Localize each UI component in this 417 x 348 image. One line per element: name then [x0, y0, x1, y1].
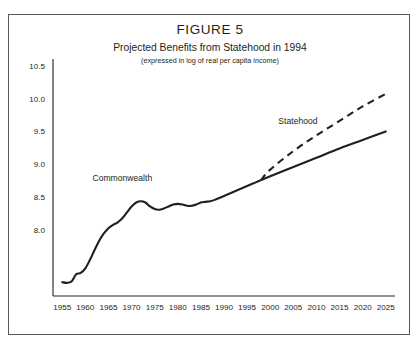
y-tick-label: 8.0	[34, 226, 46, 235]
chart-plot-area: 8.08.59.09.510.010.5 1955196019651970197…	[9, 15, 411, 336]
series-line-statehood	[261, 94, 386, 180]
x-tick-label: 2025	[377, 303, 396, 312]
x-tick-label: 2020	[354, 303, 373, 312]
y-tick-label: 8.5	[34, 193, 46, 202]
x-tick-label: 2015	[331, 303, 350, 312]
x-tick-label: 2000	[261, 303, 280, 312]
y-tick-label: 9.0	[34, 160, 46, 169]
y-tick-label: 9.5	[34, 127, 46, 136]
figure-frame: FIGURE 5 Projected Benefits from Stateho…	[8, 14, 410, 335]
x-tick-label: 1970	[123, 303, 142, 312]
x-tick-label: 2010	[307, 303, 326, 312]
y-tick-labels: 8.08.59.09.510.010.5	[29, 62, 45, 236]
line-chart: 8.08.59.09.510.010.5 1955196019651970197…	[9, 15, 411, 336]
x-tick-label: 1955	[53, 303, 72, 312]
x-tick-label: 1995	[238, 303, 257, 312]
x-tick-label: 1990	[215, 303, 234, 312]
series-annotation: Commonwealth	[92, 173, 152, 183]
x-tick-label: 1975	[146, 303, 165, 312]
y-tick-label: 10.0	[29, 95, 45, 104]
y-tick-label: 10.5	[29, 62, 45, 71]
x-tick-label: 1980	[169, 303, 188, 312]
x-tick-label: 1960	[76, 303, 95, 312]
x-tick-label: 1985	[192, 303, 211, 312]
series-annotations: CommonwealthStatehood	[92, 116, 317, 183]
y-axis: 8.08.59.09.510.010.5	[29, 59, 53, 296]
x-tick-labels: 1955196019651970197519801985199019952000…	[53, 303, 395, 312]
x-axis: 1955196019651970197519801985199019952000…	[53, 296, 395, 312]
x-tick-label: 2005	[284, 303, 303, 312]
series-annotation: Statehood	[278, 116, 317, 126]
series-line-commonwealth	[62, 131, 386, 282]
x-tick-label: 1965	[99, 303, 118, 312]
